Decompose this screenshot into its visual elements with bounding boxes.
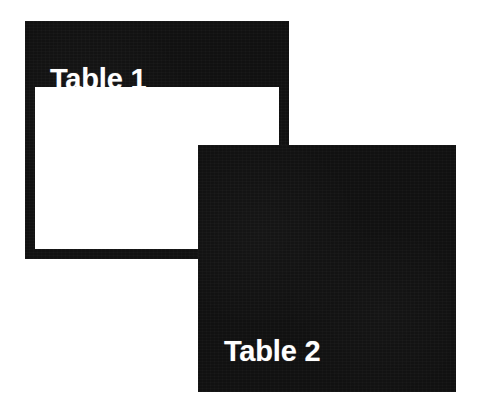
table-1-label: Table 1	[50, 65, 146, 94]
table-2-label: Table 2	[224, 337, 320, 366]
diagram-canvas: Table 1 Table 2	[0, 0, 480, 406]
table-2-shape[interactable]: Table 2	[198, 145, 456, 392]
